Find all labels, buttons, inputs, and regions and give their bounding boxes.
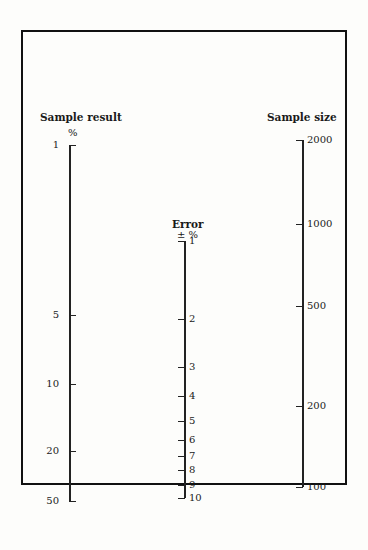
right-tick-label: 200 xyxy=(307,401,326,411)
right-tick xyxy=(296,140,303,142)
right-tick xyxy=(296,306,303,308)
middle-tick xyxy=(178,319,185,321)
middle-tick-label: 7 xyxy=(189,451,195,461)
left-tick-label: 10 xyxy=(46,379,59,389)
middle-tick-label: 6 xyxy=(189,435,195,445)
left-axis-line xyxy=(69,145,71,501)
middle-tick xyxy=(178,470,185,472)
middle-tick xyxy=(178,485,185,487)
middle-tick-label: 4 xyxy=(189,391,195,401)
right-tick-label: 2000 xyxy=(307,135,332,145)
middle-tick xyxy=(178,456,185,458)
middle-tick xyxy=(178,367,185,369)
left-tick-label: 5 xyxy=(53,310,59,320)
middle-tick xyxy=(178,421,185,423)
middle-tick-label: 2 xyxy=(189,314,195,324)
middle-tick xyxy=(178,440,185,442)
left-tick xyxy=(69,384,76,386)
middle-tick-label: 1 xyxy=(189,236,195,246)
middle-axis-line xyxy=(184,241,186,498)
right-tick-label: 500 xyxy=(307,301,326,311)
middle-tick xyxy=(178,396,185,398)
middle-tick-label: 9 xyxy=(189,480,195,490)
right-tick xyxy=(296,406,303,408)
left-tick-label: 20 xyxy=(46,446,59,456)
middle-tick-label: 8 xyxy=(189,465,195,475)
sample-result-unit: % xyxy=(68,127,78,138)
right-tick xyxy=(296,487,303,489)
sample-size-title: Sample size xyxy=(267,111,337,123)
left-tick-label: 1 xyxy=(53,140,59,150)
left-tick xyxy=(69,501,76,503)
left-tick-label: 50 xyxy=(46,496,59,506)
middle-tick-label: 5 xyxy=(189,416,195,426)
left-tick xyxy=(69,145,76,147)
middle-tick-label: 3 xyxy=(189,362,195,372)
right-axis-line xyxy=(302,140,304,487)
middle-tick xyxy=(178,241,185,243)
right-tick-label: 100 xyxy=(307,482,326,492)
right-tick-label: 1000 xyxy=(307,219,332,229)
left-tick xyxy=(69,315,76,317)
sample-result-title: Sample result xyxy=(40,111,122,123)
middle-tick-label: 10 xyxy=(189,493,202,503)
right-tick xyxy=(296,224,303,226)
left-tick xyxy=(69,451,76,453)
middle-tick xyxy=(178,498,185,500)
